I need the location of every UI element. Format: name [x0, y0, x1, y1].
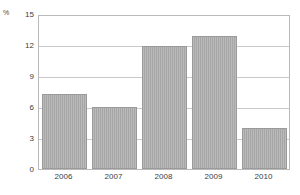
- bar-2009[interactable]: [192, 36, 237, 169]
- bar-slot-2006: [42, 16, 87, 169]
- x-tick-label-2010: 2010: [241, 172, 286, 182]
- bars-layer: [39, 16, 289, 169]
- y-tick-label-0: 0: [4, 166, 34, 174]
- x-tick-label-2007: 2007: [91, 172, 136, 182]
- bar-2007[interactable]: [92, 107, 137, 169]
- y-tick-label-9: 9: [4, 73, 34, 81]
- bar-slot-2007: [92, 16, 137, 169]
- bar-2010[interactable]: [242, 128, 287, 169]
- bar-slot-2009: [192, 16, 237, 169]
- bar-slot-2008: [142, 16, 187, 169]
- x-tick-label-2009: 2009: [191, 172, 236, 182]
- bar-chart-figure: % 15 12 9 6 3 0: [0, 0, 300, 195]
- y-tick-label-6: 6: [4, 104, 34, 112]
- plot-area: [38, 15, 290, 170]
- x-tick-label-2008: 2008: [141, 172, 186, 182]
- y-tick-label-12: 12: [4, 42, 34, 50]
- x-tick-label-2006: 2006: [41, 172, 86, 182]
- bar-2006[interactable]: [42, 94, 87, 169]
- y-tick-label-3: 3: [4, 135, 34, 143]
- bar-2008[interactable]: [142, 46, 187, 169]
- y-axis-tick-labels: 15 12 9 6 3 0: [0, 15, 34, 170]
- x-axis-tick-labels: 2006 2007 2008 2009 2010: [38, 172, 290, 186]
- bar-slot-2010: [242, 16, 287, 169]
- y-tick-label-15: 15: [4, 11, 34, 19]
